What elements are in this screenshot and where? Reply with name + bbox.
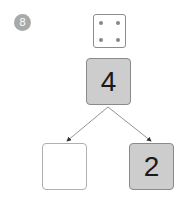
- arrow-left: [67, 107, 108, 141]
- part-answer-box-empty[interactable]: [42, 143, 87, 190]
- arrow-right: [108, 107, 151, 141]
- part-number-box: 2: [129, 143, 174, 190]
